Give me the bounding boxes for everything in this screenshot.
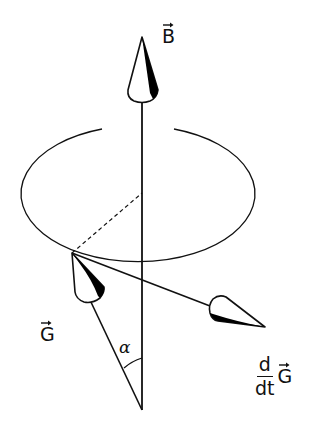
label-alpha: α [119, 339, 130, 356]
precession-ellipse [21, 129, 255, 262]
b-symbol: B [162, 25, 175, 47]
radius-dashed-line [72, 193, 142, 253]
vector-arrow-icon [278, 362, 290, 368]
vector-arrow-icon [162, 22, 174, 28]
dgdt-arrowhead-icon [209, 296, 265, 327]
g-arrowhead-icon [72, 253, 104, 303]
b-arrowhead-icon [128, 37, 158, 103]
vector-arrow-icon [40, 320, 52, 326]
fraction-denominator: dt [255, 377, 275, 398]
label-b-vector: B [162, 27, 175, 46]
g-vector-line [90, 300, 142, 410]
derivative-fraction: d dt [255, 355, 275, 398]
label-g-vector: G [40, 325, 55, 344]
g-symbol: G [40, 323, 55, 345]
fraction-numerator: d [257, 355, 273, 377]
dg-symbol: G [278, 365, 293, 387]
label-dgdt: d dt G [255, 355, 292, 398]
alpha-angle-arc [124, 358, 142, 368]
